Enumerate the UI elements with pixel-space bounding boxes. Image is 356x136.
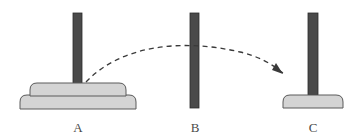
- disc-small-on-peg-c: [283, 95, 343, 108]
- tower-of-hanoi-figure: A B C: [0, 0, 356, 136]
- peg-label-b: B: [191, 120, 200, 135]
- disc-medium-on-peg-a: [30, 83, 126, 96]
- figure-background: [0, 0, 356, 136]
- diagram-canvas: A B C: [0, 0, 356, 136]
- peg-rod-c: [308, 13, 318, 95]
- disc-large-on-peg-a: [20, 95, 136, 109]
- peg-label-c: C: [309, 120, 318, 135]
- peg-rod-b: [190, 13, 199, 108]
- peg-label-a: A: [73, 120, 83, 135]
